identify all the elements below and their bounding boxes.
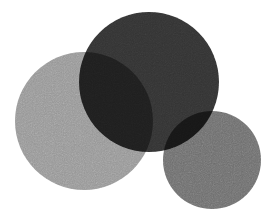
figure-canvas	[0, 0, 277, 219]
medium-gray-circle	[163, 111, 261, 209]
overlapping-circles-diagram	[0, 0, 277, 219]
